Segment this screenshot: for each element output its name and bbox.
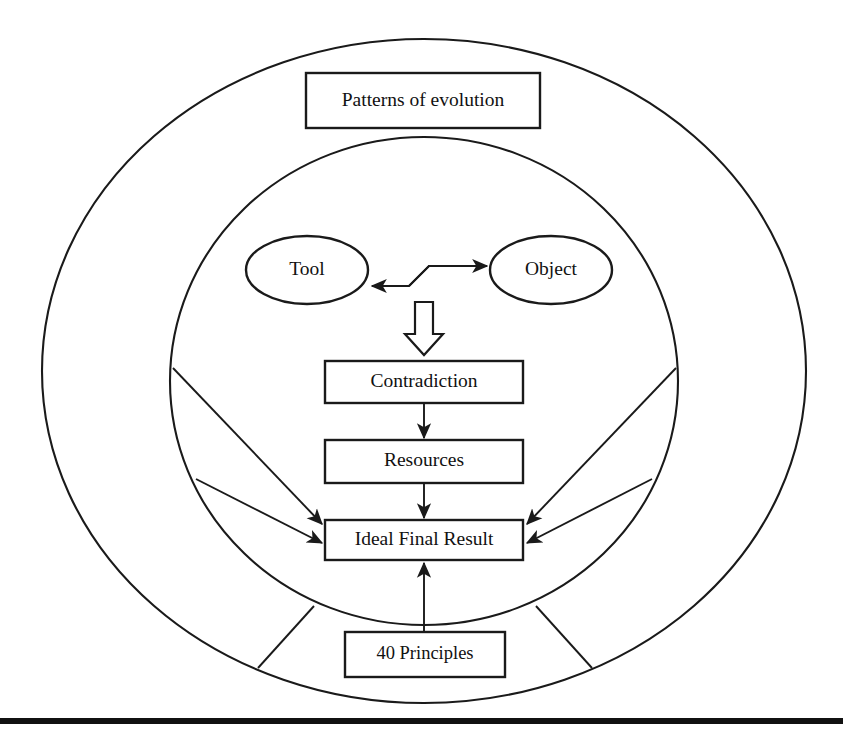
- spoke-bottom-left: [258, 606, 314, 668]
- interaction-to-contradiction-block-arrow: [405, 302, 443, 355]
- ring-left-lower-to-ifr-arrow: [196, 479, 322, 543]
- resources-label: Resources: [384, 449, 464, 470]
- patterns-of-evolution-label: Patterns of evolution: [342, 89, 505, 110]
- forty-principles-label: 40 Principles: [376, 643, 473, 663]
- object-to-tool-arrow: [372, 266, 459, 286]
- tool-label: Tool: [289, 258, 325, 279]
- contradiction-label: Contradiction: [370, 370, 477, 391]
- diagram-canvas: Patterns of evolution Tool Object Contra…: [0, 0, 843, 738]
- triz-model-diagram: Patterns of evolution Tool Object Contra…: [0, 0, 843, 738]
- baseline-bar: [0, 718, 843, 724]
- object-label: Object: [525, 258, 578, 279]
- tool-to-object-arrow: [409, 266, 487, 286]
- ideal-final-result-label: Ideal Final Result: [355, 528, 494, 549]
- spoke-bottom-right: [536, 606, 592, 668]
- ring-right-lower-to-ifr-arrow: [527, 479, 652, 543]
- ring-right-upper-to-ifr-arrow: [527, 368, 676, 524]
- ring-left-upper-to-ifr-arrow: [173, 368, 322, 524]
